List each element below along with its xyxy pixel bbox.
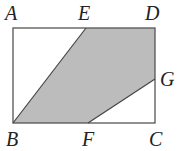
- shaded-region-BEDGF: [13, 28, 155, 123]
- label-D: D: [144, 2, 160, 24]
- label-A: A: [3, 2, 18, 24]
- label-F: F: [81, 128, 95, 150]
- label-C: C: [149, 128, 163, 150]
- label-E: E: [77, 2, 90, 24]
- label-G: G: [160, 68, 175, 90]
- label-B: B: [6, 128, 18, 150]
- geometry-diagram: A E D G B F C: [0, 0, 179, 151]
